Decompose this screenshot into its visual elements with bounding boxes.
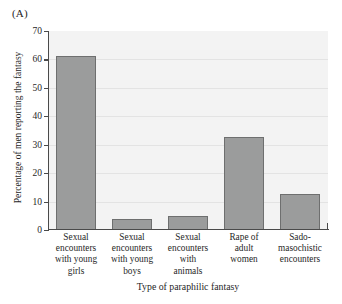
y-axis-tick-label: 50 (33, 83, 43, 93)
x-axis-category-label-line: masochistic (266, 243, 334, 254)
y-axis-tick-mark (44, 173, 49, 174)
y-axis-tick-mark (44, 31, 49, 32)
x-axis-line (48, 229, 329, 230)
x-axis-category-label: Sado-masochisticencounters (266, 232, 334, 266)
y-axis-tick-mark (44, 88, 49, 89)
x-axis-category-label-line: encounters (266, 254, 334, 265)
bar (224, 137, 264, 230)
y-axis-tick-mark (44, 59, 49, 60)
panel-label: (A) (12, 7, 28, 20)
y-axis-tick-mark (44, 145, 49, 146)
y-axis-tick-label: 20 (33, 168, 43, 178)
x-axis-end-cap (327, 223, 328, 230)
bar (56, 56, 96, 230)
y-axis-tick-label: 30 (33, 140, 43, 150)
bar (168, 216, 208, 230)
y-axis-tick-label: 60 (33, 54, 43, 64)
y-axis-tick-label: 70 (33, 26, 43, 36)
x-axis-category-labels: Sexualencounterswith younggirlsSexualenc… (48, 232, 328, 280)
x-axis-title: Type of paraphilic fantasy (48, 281, 328, 293)
x-axis-category-label-line: Sado- (266, 232, 334, 243)
y-axis-title: Percentage of men reporting the fantasy (13, 28, 24, 228)
y-axis-tick-mark (44, 116, 49, 117)
bar (280, 194, 320, 230)
x-axis-category-label-line: animals (154, 266, 222, 277)
y-axis-tick-label: 10 (33, 197, 43, 207)
chart-plot-frame: 010203040506070 (48, 31, 328, 230)
y-axis-line (48, 31, 49, 230)
y-axis-tick-mark (44, 230, 49, 231)
y-axis-tick-label: 40 (33, 111, 43, 121)
y-axis-tick-mark (44, 202, 49, 203)
